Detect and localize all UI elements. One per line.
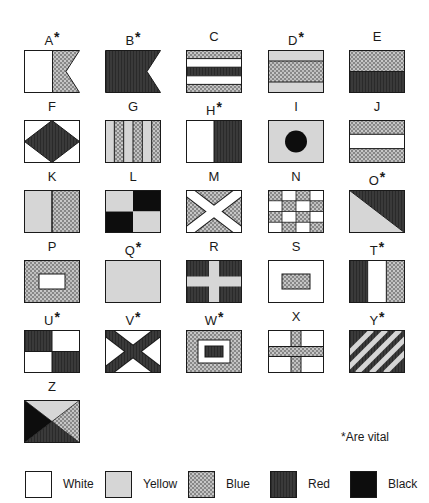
- yellow-swatch-icon: [105, 471, 132, 498]
- vital-note: *Are vital: [341, 430, 389, 444]
- legend-item-black: Black: [350, 470, 417, 498]
- flag-g-icon: [105, 120, 161, 163]
- legend-item-blue: Blue: [188, 470, 250, 498]
- flag-cell-n: N: [268, 170, 328, 236]
- flag-cell-u: U*: [24, 310, 84, 376]
- flag-x-icon: [268, 330, 324, 373]
- flag-q-icon: [105, 260, 161, 303]
- legend-label-yellow: Yellow: [143, 477, 177, 491]
- flag-cell-k: K: [24, 170, 84, 236]
- flag-label-s: S: [268, 240, 324, 254]
- flag-label-g: G: [105, 100, 161, 114]
- flag-cell-h: H*: [186, 100, 246, 166]
- flag-label-m: M: [186, 170, 242, 184]
- flag-cell-o: O*: [349, 170, 409, 236]
- legend-label-red: Red: [308, 477, 330, 491]
- flag-label-l: L: [105, 170, 161, 184]
- flag-label-p: P: [24, 240, 80, 254]
- flag-cell-m: M: [186, 170, 246, 236]
- flag-label-y: Y*: [349, 310, 405, 328]
- flag-cell-d: D*: [268, 30, 328, 96]
- legend-item-yellow: Yellow: [105, 470, 177, 498]
- flag-label-j: J: [349, 100, 405, 114]
- blue-swatch-icon: [188, 471, 215, 498]
- flag-label-d: D*: [268, 30, 324, 48]
- flag-label-o: O*: [349, 170, 405, 188]
- flag-cell-r: R: [186, 240, 246, 306]
- flag-z-icon: [24, 400, 80, 443]
- flag-a-icon: [24, 50, 80, 93]
- color-legend: White Yellow Blue Red Black: [0, 470, 429, 500]
- flag-cell-a: A*: [24, 30, 84, 96]
- flag-cell-g: G: [105, 100, 165, 166]
- flag-label-a: A*: [24, 30, 80, 48]
- flag-cell-c: C: [186, 30, 246, 96]
- legend-label-white: White: [63, 477, 94, 491]
- legend-item-white: White: [25, 470, 94, 498]
- black-swatch-icon: [350, 471, 377, 498]
- flag-i-icon: [268, 120, 324, 163]
- flag-label-w: W*: [186, 310, 242, 328]
- flag-e-icon: [349, 50, 405, 93]
- flag-cell-b: B*: [105, 30, 165, 96]
- flag-l-icon: [105, 190, 161, 233]
- flag-t-icon: [349, 260, 405, 303]
- flag-w-icon: [186, 330, 242, 373]
- flag-n-icon: [268, 190, 324, 233]
- flag-cell-j: J: [349, 100, 409, 166]
- flag-cell-t: T*: [349, 240, 409, 306]
- flag-cell-y: Y*: [349, 310, 409, 376]
- flag-label-x: X: [268, 310, 324, 324]
- flag-h-icon: [186, 120, 242, 163]
- flag-u-icon: [24, 330, 80, 373]
- flag-label-r: R: [186, 240, 242, 254]
- flag-label-v: V*: [105, 310, 161, 328]
- flag-k-icon: [24, 190, 80, 233]
- flag-cell-z: Z: [24, 380, 84, 446]
- legend-label-blue: Blue: [226, 477, 250, 491]
- flag-label-z: Z: [24, 380, 80, 394]
- flag-v-icon: [105, 330, 161, 373]
- flag-cell-q: Q*: [105, 240, 165, 306]
- flag-cell-p: P: [24, 240, 84, 306]
- flag-cell-w: W*: [186, 310, 246, 376]
- flag-label-k: K: [24, 170, 80, 184]
- flag-cell-l: L: [105, 170, 165, 236]
- flag-o-icon: [349, 190, 405, 233]
- flag-j-icon: [349, 120, 405, 163]
- flag-label-f: F: [24, 100, 80, 114]
- red-swatch-icon: [270, 471, 297, 498]
- flag-y-icon: [349, 330, 405, 373]
- flag-label-u: U*: [24, 310, 80, 328]
- flag-f-icon: [24, 120, 80, 163]
- legend-item-red: Red: [270, 470, 330, 498]
- flag-label-c: C: [186, 30, 242, 44]
- flag-m-icon: [186, 190, 242, 233]
- flag-cell-x: X: [268, 310, 328, 376]
- flag-cell-f: F: [24, 100, 84, 166]
- flag-cell-i: I: [268, 100, 328, 166]
- flag-r-icon: [186, 260, 242, 303]
- flag-b-icon: [105, 50, 161, 93]
- flag-d-icon: [268, 50, 324, 93]
- vital-note-text: Are vital: [346, 430, 389, 444]
- flag-label-b: B*: [105, 30, 161, 48]
- flag-label-e: E: [349, 30, 405, 44]
- flag-cell-e: E: [349, 30, 409, 96]
- flag-label-n: N: [268, 170, 324, 184]
- flag-label-h: H*: [186, 100, 242, 118]
- flag-label-t: T*: [349, 240, 405, 258]
- flag-c-icon: [186, 50, 242, 93]
- legend-label-black: Black: [388, 477, 417, 491]
- flag-cell-s: S: [268, 240, 328, 306]
- flag-s-icon: [268, 260, 324, 303]
- flag-label-q: Q*: [105, 240, 161, 258]
- flag-p-icon: [24, 260, 80, 303]
- flag-label-i: I: [268, 100, 324, 114]
- white-swatch-icon: [25, 471, 52, 498]
- flag-cell-v: V*: [105, 310, 165, 376]
